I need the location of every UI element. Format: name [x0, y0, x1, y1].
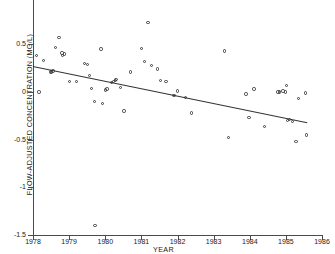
data-point	[146, 21, 149, 24]
data-point	[35, 54, 38, 57]
data-point	[150, 64, 153, 67]
data-point	[294, 140, 297, 143]
data-point	[119, 86, 122, 89]
data-point	[164, 80, 167, 83]
y-tick-label: 0.5	[2, 40, 26, 47]
data-point	[244, 92, 247, 95]
data-point	[90, 87, 93, 90]
x-tick-label: 1980	[92, 238, 118, 245]
data-point	[68, 80, 71, 83]
x-tick-label: 1984	[237, 238, 263, 245]
data-point	[156, 67, 159, 70]
y-tick	[28, 187, 33, 188]
data-point	[57, 36, 60, 39]
data-point	[176, 89, 179, 92]
data-point	[37, 90, 40, 93]
y-axis-line	[33, 0, 34, 236]
data-point	[143, 60, 146, 63]
y-tick-label: -1	[2, 183, 26, 190]
data-point	[63, 52, 66, 55]
data-point	[129, 70, 132, 73]
x-tick-label: 1983	[201, 238, 227, 245]
data-point	[263, 125, 266, 128]
trendline	[33, 66, 308, 123]
x-tick-label: 1979	[56, 238, 82, 245]
data-point	[93, 224, 96, 227]
data-point	[54, 46, 57, 49]
data-point	[105, 87, 108, 90]
data-point	[252, 87, 255, 90]
data-point	[122, 109, 125, 112]
y-tick-label: 0	[2, 88, 26, 95]
data-point	[140, 47, 143, 50]
data-point	[75, 80, 78, 83]
x-tick-label: 1982	[165, 238, 191, 245]
data-point	[304, 91, 307, 94]
x-tick-label: 1978	[20, 238, 46, 245]
data-point	[114, 78, 117, 81]
data-point	[42, 59, 45, 62]
data-point	[93, 100, 96, 103]
y-tick	[28, 92, 33, 93]
data-point	[247, 116, 250, 119]
y-tick	[28, 140, 33, 141]
y-tick	[28, 44, 33, 45]
x-axis-title: YEAR	[0, 245, 327, 254]
data-point	[101, 102, 104, 105]
x-tick-label: 1981	[128, 238, 154, 245]
data-point	[285, 84, 288, 87]
data-point	[86, 63, 89, 66]
data-point	[99, 47, 102, 50]
data-point	[284, 90, 287, 93]
x-tick-label: 1985	[273, 238, 299, 245]
data-point	[223, 49, 226, 52]
data-point	[159, 79, 162, 82]
data-point	[305, 133, 308, 136]
data-point	[227, 136, 230, 139]
y-tick-label: -1.5	[2, 231, 26, 238]
data-point	[190, 111, 193, 114]
data-point	[297, 97, 300, 100]
x-tick-label: 1986	[309, 238, 335, 245]
y-tick-label: -0.5	[2, 136, 26, 143]
